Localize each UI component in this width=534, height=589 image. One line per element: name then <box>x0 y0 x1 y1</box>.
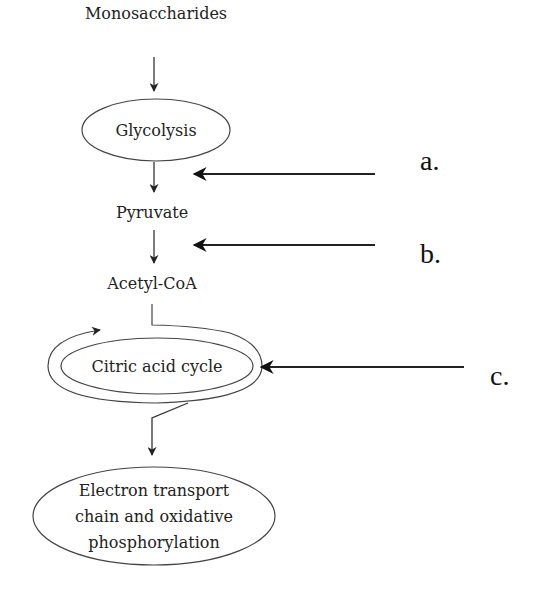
pointer-b: b. <box>194 238 441 269</box>
node-monosaccharides: Monosaccharides <box>85 4 227 23</box>
pointer-c-label: c. <box>490 360 509 391</box>
svg-text:Electron transport: Electron transport <box>79 481 230 500</box>
edge-citric-acid-cycle-electron-transport <box>152 403 188 455</box>
node-acetyl-coa: Acetyl-CoA <box>106 274 197 293</box>
pointer-b-label: b. <box>420 238 441 269</box>
pointer-c: c. <box>261 360 509 391</box>
node-glycolysis: Glycolysis <box>82 99 230 161</box>
metabolism-diagram: Monosaccharides Glycolysis Pyruvate Acet… <box>0 0 534 589</box>
pointer-a: a. <box>194 145 439 176</box>
pointer-a-label: a. <box>420 145 439 176</box>
svg-text:phosphorylation: phosphorylation <box>88 533 219 552</box>
svg-text:Glycolysis: Glycolysis <box>115 121 196 140</box>
node-pyruvate: Pyruvate <box>116 203 188 222</box>
node-electron-transport: Electron transport chain and oxidative p… <box>33 467 275 565</box>
svg-text:Citric acid cycle: Citric acid cycle <box>91 357 222 376</box>
svg-text:chain and oxidative: chain and oxidative <box>75 507 233 526</box>
node-citric-acid-cycle: Citric acid cycle <box>48 304 262 403</box>
